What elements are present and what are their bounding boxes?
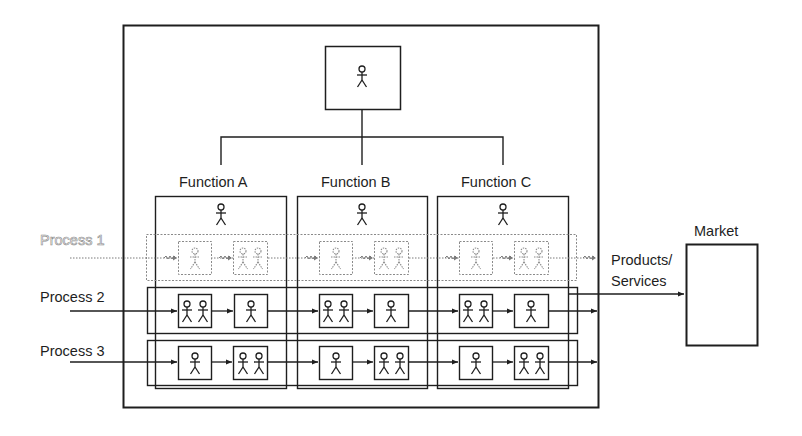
- services-label: Services: [611, 273, 667, 289]
- market-label: Market: [694, 223, 738, 239]
- process-2-node: [179, 295, 212, 328]
- process-1-label: Process 1: [40, 232, 104, 248]
- top-manager-box: [326, 47, 401, 110]
- process-2-node: [235, 295, 268, 328]
- process-2-label: Process 2: [40, 289, 104, 305]
- process-3-node: [320, 347, 353, 380]
- person-icon: [498, 204, 508, 225]
- process-1-node: [375, 242, 409, 275]
- organization-process-diagram: [0, 0, 802, 436]
- process-1-node: [179, 242, 212, 275]
- hierarchy-connectors: [221, 109, 503, 165]
- process-1-node: [515, 242, 549, 275]
- market-box: [687, 245, 758, 346]
- process-3-node: [179, 347, 212, 380]
- process-1-node: [320, 242, 353, 275]
- process-3-node: [234, 347, 268, 380]
- function-a-label: Function A: [179, 174, 248, 190]
- process-3-node: [460, 347, 493, 380]
- process-2-node: [320, 295, 353, 328]
- process-2-node: [515, 295, 549, 328]
- function-c-label: Function C: [461, 174, 531, 190]
- process-1-node: [460, 242, 493, 275]
- process-3-node: [515, 347, 549, 380]
- person-icon: [216, 204, 226, 225]
- process-3-label: Process 3: [40, 343, 104, 359]
- process-2-lane: [70, 288, 597, 334]
- process-1-lane: [70, 235, 596, 281]
- process-3-lane: [70, 341, 597, 386]
- process-2-node: [460, 295, 493, 328]
- process-1-node: [234, 242, 268, 275]
- person-icon: [357, 204, 367, 225]
- function-b-label: Function B: [321, 174, 390, 190]
- products-label: Products/: [611, 252, 672, 268]
- process-2-node: [375, 295, 409, 328]
- process-3-node: [375, 347, 409, 380]
